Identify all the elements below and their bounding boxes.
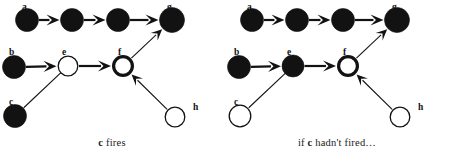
neuron-body-unfired xyxy=(339,57,358,76)
neuron-node-g: g xyxy=(160,2,185,32)
node-label-b: b xyxy=(9,47,14,57)
neuron-body-unfired xyxy=(58,56,78,76)
node-label-e: e xyxy=(287,47,291,57)
neuron-node-a3 xyxy=(332,9,355,32)
neuron-node-f: f xyxy=(339,47,358,75)
neuron-body-fired xyxy=(61,9,84,32)
neuron-node-b: b xyxy=(228,47,251,78)
caption-prefix: if xyxy=(298,137,308,148)
caption-suffix: fires xyxy=(103,137,125,148)
node-label-g: g xyxy=(167,2,172,12)
edge-a2-to-a3 xyxy=(84,14,106,25)
neuron-node-c: c xyxy=(229,97,251,126)
diagram-canvas-left: agbefch xyxy=(0,0,224,140)
neuron-body-fired xyxy=(160,8,185,33)
node-label-a: a xyxy=(22,2,27,12)
neuron-body-fired xyxy=(107,9,130,32)
neuron-node-b: b xyxy=(3,47,26,78)
node-label-c: c xyxy=(234,97,238,107)
edge-b-to-e xyxy=(251,61,281,72)
neuron-body-fired xyxy=(286,9,309,32)
edge-f-to-g xyxy=(131,29,162,58)
neuron-node-a2 xyxy=(286,9,309,32)
neuron-body-unfired xyxy=(229,105,251,127)
edge-h-to-f xyxy=(132,74,168,109)
neuron-body-fired xyxy=(332,9,355,32)
neuron-node-a: a xyxy=(241,2,264,31)
panel-caption-right: if c hadn't fired… xyxy=(225,136,449,150)
neuron-node-h: h xyxy=(165,102,199,126)
node-label-c: c xyxy=(9,97,13,107)
neuron-body-unfired xyxy=(165,107,185,127)
node-label-h: h xyxy=(418,102,424,112)
edge-e-to-f xyxy=(305,60,337,71)
neuron-body-fired xyxy=(282,55,304,77)
node-label-h: h xyxy=(193,102,199,112)
edge-b-to-e xyxy=(26,61,57,72)
neuron-node-g: g xyxy=(385,2,410,32)
caption-suffix: hadn't fired… xyxy=(312,137,376,148)
diagram-panel-left: agbefch c fires xyxy=(0,0,224,157)
neuron-node-c: c xyxy=(4,97,27,127)
neuron-node-a3 xyxy=(107,9,130,32)
neuron-node-e: e xyxy=(58,47,78,75)
neuron-body-fired xyxy=(228,56,251,79)
neuron-body-fired xyxy=(4,105,27,128)
edge-h-to-f xyxy=(357,74,393,109)
node-label-g: g xyxy=(392,2,397,12)
node-label-a: a xyxy=(247,2,252,12)
neuron-body-fired xyxy=(241,9,264,32)
neuron-body-unfired xyxy=(114,57,133,76)
edge-e-to-f xyxy=(79,60,111,71)
diagram-panel-right: agbefch if c hadn't fired… xyxy=(225,0,449,157)
panel-caption-left: c fires xyxy=(0,136,224,150)
neuron-diagram-figure: agbefch c fires agbefch if c hadn't fire… xyxy=(0,0,449,157)
edge-a-to-a2 xyxy=(264,14,285,25)
neuron-body-fired xyxy=(3,56,26,79)
neuron-body-fired xyxy=(385,8,410,33)
neuron-node-e: e xyxy=(282,47,304,77)
edge-a3-to-g xyxy=(355,14,384,25)
neuron-node-h: h xyxy=(390,102,424,126)
neuron-body-unfired xyxy=(390,107,410,127)
neuron-node-a2 xyxy=(61,9,84,32)
node-label-e: e xyxy=(62,47,66,57)
edge-a-to-a2 xyxy=(39,14,60,25)
neuron-body-fired xyxy=(16,9,39,32)
node-label-b: b xyxy=(234,47,239,57)
edge-f-to-g xyxy=(356,29,387,58)
edge-a3-to-g xyxy=(130,14,159,25)
diagram-canvas-right: agbefch xyxy=(225,0,449,140)
neuron-node-a: a xyxy=(16,2,39,31)
neuron-node-f: f xyxy=(114,47,133,75)
edge-a2-to-a3 xyxy=(309,14,331,25)
